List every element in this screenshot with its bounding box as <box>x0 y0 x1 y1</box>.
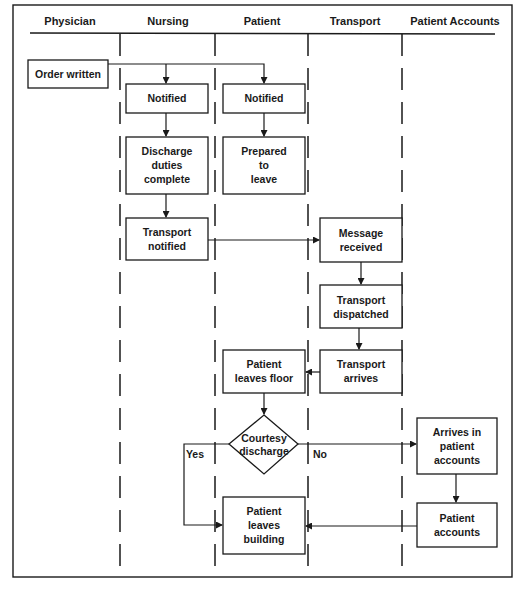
node-transport-notified: Transport notified <box>126 218 208 260</box>
svg-text:leaves: leaves <box>248 519 280 531</box>
node-message-received: Message received <box>320 218 402 262</box>
svg-text:leaves floor: leaves floor <box>235 372 293 384</box>
svg-text:Notified: Notified <box>244 92 283 104</box>
svg-text:patient: patient <box>440 440 475 452</box>
node-order-written: Order written <box>28 60 108 88</box>
svg-text:duties: duties <box>152 159 183 171</box>
svg-text:Transport: Transport <box>337 294 386 306</box>
node-prepared-to-leave: Prepared to leave <box>223 137 305 194</box>
svg-text:complete: complete <box>144 173 190 185</box>
lane-title-physician: Physician <box>44 15 96 27</box>
svg-text:arrives: arrives <box>344 372 379 384</box>
svg-text:Patient: Patient <box>246 358 282 370</box>
svg-text:Order written: Order written <box>35 68 101 80</box>
svg-text:Patient: Patient <box>246 505 282 517</box>
decision-courtesy-discharge: Courtesy discharge <box>229 415 298 474</box>
svg-text:Patient: Patient <box>439 512 475 524</box>
svg-text:to: to <box>259 159 269 171</box>
edge-label-no: No <box>313 448 327 460</box>
svg-text:Arrives in: Arrives in <box>433 426 481 438</box>
node-discharge-duties-complete: Discharge duties complete <box>126 137 208 194</box>
svg-text:building: building <box>244 533 285 545</box>
svg-text:Notified: Notified <box>147 92 186 104</box>
svg-text:Transport: Transport <box>143 226 192 238</box>
swimlane-flowchart: Physician Nursing Patient Transport Pati… <box>0 0 528 591</box>
svg-text:Transport: Transport <box>337 358 386 370</box>
lane-title-transport: Transport <box>330 15 381 27</box>
node-patient-notified: Notified <box>223 84 305 113</box>
node-patient-leaves-floor: Patient leaves floor <box>223 350 305 393</box>
node-patient-leaves-building: Patient leaves building <box>223 497 305 554</box>
svg-text:Prepared: Prepared <box>241 145 287 157</box>
edge-label-yes: Yes <box>186 448 204 460</box>
header-rule <box>30 33 495 34</box>
svg-text:accounts: accounts <box>434 454 480 466</box>
edge-order-to-patient-notified <box>108 64 264 83</box>
node-nursing-notified: Notified <box>126 84 208 113</box>
node-patient-accounts: Patient accounts <box>417 503 497 547</box>
svg-text:received: received <box>340 241 383 253</box>
node-transport-dispatched: Transport dispatched <box>320 285 402 328</box>
svg-text:leave: leave <box>251 173 277 185</box>
node-transport-arrives: Transport arrives <box>320 350 402 393</box>
node-arrives-in-patient-accounts: Arrives in patient accounts <box>417 418 497 474</box>
svg-text:Discharge: Discharge <box>142 145 193 157</box>
svg-text:dispatched: dispatched <box>333 308 388 320</box>
svg-text:notified: notified <box>148 240 186 252</box>
svg-text:Courtesy: Courtesy <box>241 432 287 444</box>
svg-text:Message: Message <box>339 227 384 239</box>
svg-text:accounts: accounts <box>434 526 480 538</box>
svg-text:discharge: discharge <box>239 445 289 457</box>
lane-title-patient: Patient <box>244 15 281 27</box>
lane-title-patient-accounts: Patient Accounts <box>410 15 499 27</box>
lane-title-nursing: Nursing <box>147 15 189 27</box>
